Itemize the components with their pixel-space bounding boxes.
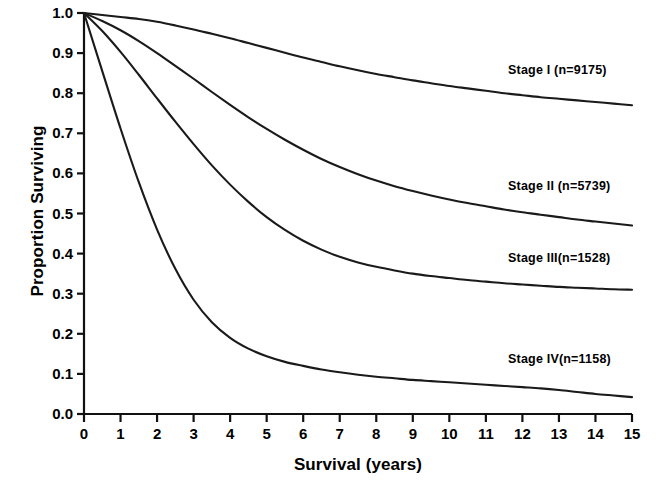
series-label-stage-iv: Stage IV(n=1158) [508, 352, 611, 366]
x-axis-tick-label: 6 [288, 425, 318, 442]
x-axis-ticks [84, 414, 632, 422]
x-axis-tick-label: 8 [361, 425, 391, 442]
y-axis-tick-label: 0.2 [27, 325, 73, 342]
x-axis-tick-label: 7 [325, 425, 355, 442]
survival-curve-figure: Proportion Surviving Survival (years) 0.… [0, 0, 659, 486]
series-label-stage-i: Stage I (n=9175) [508, 63, 607, 77]
x-axis-tick-label: 5 [252, 425, 282, 442]
series-label-stage-ii: Stage II (n=5739) [508, 179, 610, 193]
x-axis-tick-label: 15 [617, 425, 647, 442]
y-axis-tick-label: 0.3 [27, 285, 73, 302]
y-axis-tick-label: 0.8 [27, 84, 73, 101]
series-label-stage-iii: Stage III(n=1528) [508, 251, 610, 265]
x-axis-tick-label: 10 [434, 425, 464, 442]
x-axis-tick-label: 9 [398, 425, 428, 442]
y-axis-tick-label: 0.0 [27, 405, 73, 422]
y-axis-tick-label: 0.6 [27, 164, 73, 181]
x-axis-tick-label: 3 [179, 425, 209, 442]
curve-stage-ii [84, 13, 632, 226]
y-axis-tick-label: 0.5 [27, 205, 73, 222]
y-axis-tick-label: 0.7 [27, 124, 73, 141]
x-axis-tick-label: 11 [471, 425, 501, 442]
y-axis-tick-label: 0.1 [27, 365, 73, 382]
x-axis-tick-label: 1 [106, 425, 136, 442]
y-axis-tick-label: 0.4 [27, 245, 73, 262]
x-axis-tick-label: 0 [69, 425, 99, 442]
x-axis-tick-label: 14 [580, 425, 610, 442]
y-axis-tick-label: 1.0 [27, 4, 73, 21]
y-axis-tick-label: 0.9 [27, 44, 73, 61]
x-axis-tick-label: 13 [544, 425, 574, 442]
x-axis-tick-label: 4 [215, 425, 245, 442]
x-axis-tick-label: 2 [142, 425, 172, 442]
x-axis-title: Survival (years) [84, 455, 632, 475]
x-axis-tick-label: 12 [507, 425, 537, 442]
